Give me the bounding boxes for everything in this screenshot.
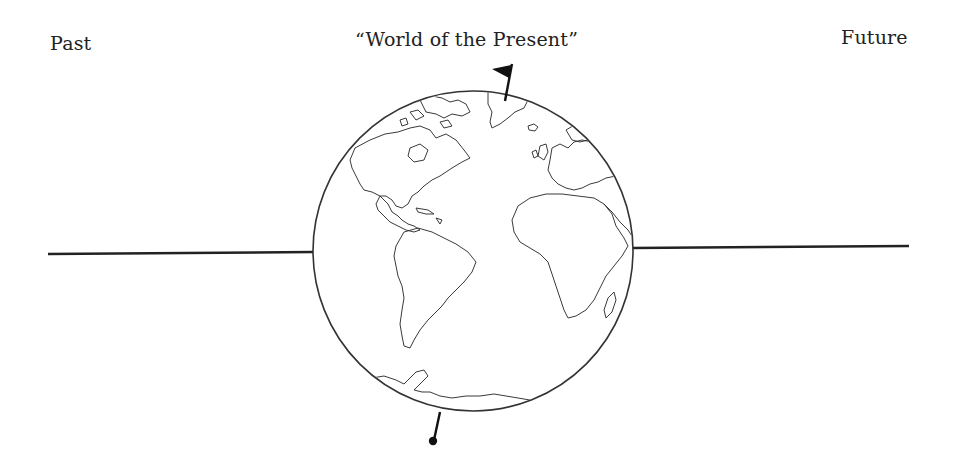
timeline-future-line	[633, 246, 909, 248]
timeline-diagram	[0, 0, 956, 467]
globe-icon	[313, 90, 633, 420]
pin-icon	[429, 412, 440, 445]
timeline-past-line	[48, 252, 313, 254]
